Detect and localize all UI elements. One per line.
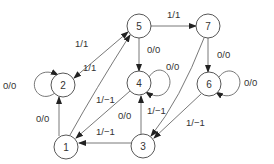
svg-text:1: 1: [63, 142, 69, 153]
node-3: 3: [131, 134, 155, 158]
svg-text:0/0: 0/0: [217, 49, 230, 60]
edge-1-2: 0/0: [36, 97, 59, 136]
node-1: 1: [54, 135, 78, 159]
svg-text:1/−1: 1/−1: [147, 105, 166, 116]
edge-5-4: 0/0: [139, 38, 160, 71]
edge-7-6: 0/0: [208, 38, 230, 72]
svg-text:1/−1: 1/−1: [186, 117, 205, 128]
edge-3-4: 1/−1: [141, 96, 166, 134]
node-6: 6: [197, 72, 221, 96]
state-diagram: 1/1 1/1 1/1 0/0 0/0 0/0 0/0 0/0 0/0 1/−1…: [0, 0, 274, 164]
svg-text:1/−1: 1/−1: [96, 94, 115, 105]
svg-text:1/1: 1/1: [167, 9, 180, 20]
edge-6-6-loop: 0/0: [216, 71, 257, 96]
edge-2-2-loop: 0/0: [3, 72, 58, 96]
svg-text:0/0: 0/0: [118, 110, 131, 121]
svg-text:1/−1: 1/−1: [96, 126, 115, 137]
svg-text:4: 4: [136, 78, 142, 89]
svg-text:7: 7: [205, 21, 211, 32]
svg-text:0/0: 0/0: [166, 61, 179, 72]
svg-text:0/0: 0/0: [147, 44, 160, 55]
svg-text:5: 5: [136, 21, 142, 32]
edge-5-7: 1/1: [151, 9, 196, 26]
svg-text:1/1: 1/1: [83, 62, 96, 73]
svg-text:0/0: 0/0: [244, 77, 257, 88]
node-4: 4: [127, 71, 151, 95]
svg-text:1/1: 1/1: [75, 38, 88, 49]
svg-text:6: 6: [206, 79, 212, 90]
svg-text:0/0: 0/0: [3, 80, 16, 91]
edge-6-3: 1/−1: [154, 94, 205, 138]
svg-text:0/0: 0/0: [36, 113, 49, 124]
edge-4-4-loop: 0/0: [146, 61, 179, 96]
node-7: 7: [196, 14, 220, 38]
node-5: 5: [127, 14, 151, 38]
svg-text:2: 2: [60, 80, 66, 91]
node-2: 2: [51, 73, 75, 97]
svg-text:3: 3: [140, 141, 146, 152]
